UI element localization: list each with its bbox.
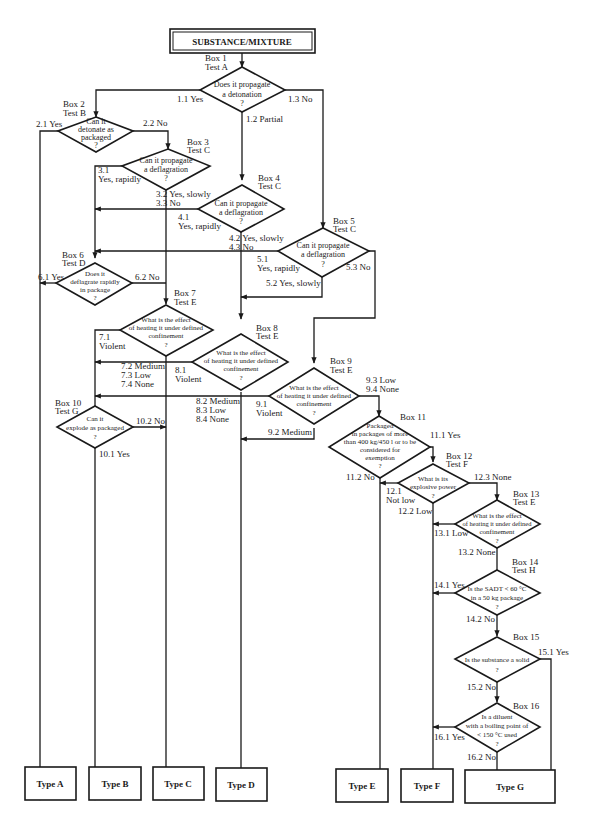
terminal-type-f: Type F	[401, 769, 453, 802]
svg-text:?: ?	[94, 141, 98, 150]
svg-text:Test C: Test C	[258, 181, 281, 191]
svg-text:?: ?	[240, 99, 244, 108]
svg-text:of heating it under defined: of heating it under defined	[204, 357, 279, 365]
svg-text:explode as packaged: explode as packaged	[66, 424, 124, 432]
svg-text:Does it: Does it	[85, 270, 105, 278]
decision-box-10: Box 10 Test G Can it explode as packaged…	[55, 398, 133, 448]
svg-text:Type C: Type C	[164, 779, 192, 789]
svg-text:Yes, rapidly: Yes, rapidly	[257, 263, 301, 273]
svg-text:12.2 Low: 12.2 Low	[398, 506, 433, 516]
svg-text:in package: in package	[80, 286, 110, 294]
svg-text:14.2 No: 14.2 No	[466, 614, 495, 624]
svg-text:11.1 Yes: 11.1 Yes	[430, 430, 461, 440]
svg-text:?: ?	[495, 740, 498, 748]
svg-text:Packaged: Packaged	[367, 422, 394, 430]
svg-text:4.3 No: 4.3 No	[229, 242, 254, 252]
svg-text:?: ?	[239, 217, 243, 226]
svg-text:Test F: Test F	[446, 459, 468, 469]
svg-text:What is the effect: What is the effect	[216, 349, 265, 357]
svg-text:2.1 Yes: 2.1 Yes	[36, 119, 63, 129]
svg-text:6.1 Yes: 6.1 Yes	[38, 272, 65, 282]
svg-text:Is the substance a solid: Is the substance a solid	[465, 656, 530, 664]
svg-text:Box 15: Box 15	[513, 632, 540, 642]
svg-text:Yes, rapidly: Yes, rapidly	[98, 174, 142, 184]
svg-text:a deflagration: a deflagration	[219, 208, 263, 217]
svg-text:1.3 No: 1.3 No	[288, 94, 313, 104]
decision-box-15: Box 15 Is the substance a solid ?	[455, 632, 540, 682]
svg-text:1.1 Yes: 1.1 Yes	[177, 94, 204, 104]
svg-text:Box 16: Box 16	[513, 701, 540, 711]
svg-text:16.2 No: 16.2 No	[467, 752, 496, 762]
svg-text:?: ?	[495, 603, 498, 611]
svg-text:1.2 Partial: 1.2 Partial	[246, 114, 283, 124]
svg-text:exemption: exemption	[365, 454, 395, 462]
terminal-type-a: Type A	[25, 767, 76, 800]
terminal-type-d: Type D	[216, 768, 267, 801]
svg-text:5.3 No: 5.3 No	[346, 262, 371, 272]
svg-text:Violent: Violent	[256, 408, 283, 418]
decision-box-16: Box 16 Is a diluent with a boiling point…	[455, 701, 540, 752]
svg-text:Test B: Test B	[63, 108, 86, 118]
svg-text:deflagrate rapidly: deflagrate rapidly	[70, 278, 120, 286]
svg-text:16.1 Yes: 16.1 Yes	[434, 732, 465, 742]
svg-text:6.2 No: 6.2 No	[135, 272, 160, 282]
terminal-type-e: Type E	[336, 769, 388, 802]
svg-text:12.3 None: 12.3 None	[474, 472, 512, 482]
svg-text:15.1 Yes: 15.1 Yes	[538, 647, 569, 657]
svg-text:Box 11: Box 11	[400, 412, 426, 422]
svg-text:Can it propagate: Can it propagate	[297, 241, 350, 250]
svg-text:Can it propagate: Can it propagate	[215, 199, 268, 208]
svg-text:Type F: Type F	[414, 781, 441, 791]
svg-text:considered for: considered for	[360, 446, 401, 454]
svg-text:?: ?	[312, 409, 315, 417]
svg-text:Type E: Type E	[348, 781, 375, 791]
svg-text:?: ?	[164, 341, 167, 349]
svg-text:Violent: Violent	[99, 341, 126, 351]
svg-text:than 400 kg/450 l or to be: than 400 kg/450 l or to be	[344, 438, 416, 446]
svg-text:Test E: Test E	[513, 497, 536, 507]
svg-text:Test D: Test D	[62, 258, 86, 268]
svg-text:10.1 Yes: 10.1 Yes	[99, 449, 130, 459]
svg-text:5.2 Yes, slowly: 5.2 Yes, slowly	[266, 278, 321, 288]
decision-box-6: Box 6 Test D Does it deflagrate rapidly …	[56, 250, 132, 305]
svg-text:Test G: Test G	[55, 406, 79, 416]
svg-text:10.2 No: 10.2 No	[136, 416, 165, 426]
svg-text:?: ?	[495, 666, 498, 674]
svg-text:Type G: Type G	[496, 782, 524, 792]
svg-text:What is the effect: What is the effect	[472, 512, 521, 520]
svg-text:Test C: Test C	[333, 224, 356, 234]
svg-text:Test C: Test C	[187, 145, 210, 155]
svg-text:?: ?	[93, 433, 96, 441]
decision-box-11: Box 11 Packaged in packages of more than…	[329, 412, 430, 478]
svg-text:What is its: What is its	[418, 475, 448, 483]
svg-text:?: ?	[495, 537, 498, 545]
terminal-type-c: Type C	[153, 767, 204, 800]
svg-text:in packages of more: in packages of more	[352, 430, 409, 438]
svg-text:3.3 No: 3.3 No	[156, 198, 181, 208]
svg-text:Is the SADT < 60 °C: Is the SADT < 60 °C	[468, 585, 527, 593]
start-label: SUBSTANCE/MIXTURE	[192, 37, 291, 47]
svg-text:What is the effect: What is the effect	[289, 384, 338, 392]
start-node: SUBSTANCE/MIXTURE	[170, 29, 315, 53]
svg-text:of heating it under defined: of heating it under defined	[129, 324, 204, 332]
svg-text:Can it: Can it	[87, 415, 104, 423]
svg-text:confinement: confinement	[224, 365, 259, 373]
svg-text:a deflagration: a deflagration	[301, 250, 345, 259]
svg-text:?: ?	[239, 374, 242, 382]
svg-text:9.4 None: 9.4 None	[366, 384, 399, 394]
svg-text:of heating it under defined: of heating it under defined	[277, 392, 352, 400]
svg-text:confinement: confinement	[480, 528, 515, 536]
svg-text:2.2 No: 2.2 No	[143, 118, 168, 128]
svg-text:?: ?	[93, 294, 96, 302]
svg-text:Yes, rapidly: Yes, rapidly	[178, 221, 222, 231]
svg-text:Not low: Not low	[386, 495, 416, 505]
terminal-type-b: Type B	[89, 767, 141, 800]
terminal-type-g: Type G	[465, 770, 555, 803]
svg-text:with a boiling point of: with a boiling point of	[466, 722, 529, 730]
svg-text:Does it propagate: Does it propagate	[214, 80, 271, 89]
svg-text:Test E: Test E	[330, 365, 353, 375]
svg-text:confinement: confinement	[297, 400, 332, 408]
svg-text:11.2 No: 11.2 No	[346, 472, 375, 482]
svg-text:15.2 No: 15.2 No	[467, 682, 496, 692]
svg-text:Type D: Type D	[227, 780, 255, 790]
